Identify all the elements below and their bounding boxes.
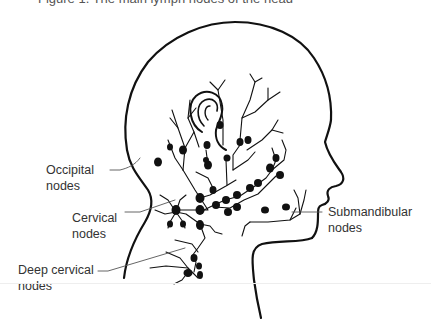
label-submandibular-line2: nodes <box>328 220 412 236</box>
label-deep-cervical-nodes: Deep cervical nodes <box>18 262 94 294</box>
label-cervical-line1: Cervical <box>72 210 117 226</box>
neck-front <box>252 238 312 318</box>
label-deep-cervical-line1: Deep cervical <box>18 262 94 278</box>
leader-deep-cervical <box>98 248 185 271</box>
label-submandibular-line1: Submandibular <box>328 204 412 220</box>
ear-inner <box>198 99 217 126</box>
label-occipital-line1: Occipital <box>46 162 94 178</box>
label-cervical-nodes: Cervical nodes <box>72 210 117 242</box>
label-occipital-nodes: Occipital nodes <box>46 162 94 194</box>
leader-occipital <box>110 158 140 170</box>
label-cervical-line2: nodes <box>72 226 117 242</box>
label-submandibular-nodes: Submandibular nodes <box>328 204 412 236</box>
label-occipital-line2: nodes <box>46 178 94 194</box>
divider <box>0 283 431 284</box>
label-deep-cervical-line2: nodes <box>18 278 94 294</box>
